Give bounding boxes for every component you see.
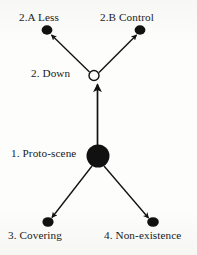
node-down[interactable]: [89, 71, 99, 81]
node-label-down: 2. Down: [31, 67, 70, 79]
node-label-covering: 3. Covering: [8, 229, 62, 241]
node-label-control: 2.B Control: [100, 11, 154, 23]
node-non-existence[interactable]: [147, 217, 159, 227]
node-proto-scene[interactable]: [87, 145, 110, 168]
edge-down-to-control: [99, 35, 137, 73]
node-label-non-existence: 4. Non-existence: [104, 229, 181, 241]
node-label-less: 2.A Less: [19, 11, 59, 23]
node-covering[interactable]: [42, 217, 53, 227]
node-label-proto-scene: 1. Proto-scene: [11, 147, 76, 159]
edge-proto-to-covering: [52, 166, 92, 218]
node-less[interactable]: [42, 25, 53, 34]
node-control[interactable]: [135, 25, 146, 34]
diagram-canvas: 2.A Less 2.B Control 2. Down 1. Proto-sc…: [0, 0, 197, 255]
graph-svg: [0, 0, 197, 255]
edge-proto-to-non-existence: [104, 166, 149, 218]
